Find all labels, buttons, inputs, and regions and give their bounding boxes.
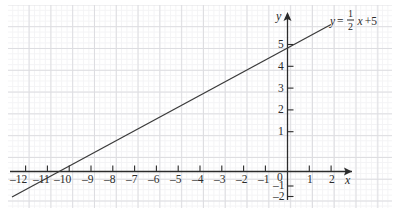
x-tick-label: –12 [10,174,27,186]
x-tick-label: –4 [192,174,204,186]
equation-fraction: 1 2 [347,9,354,32]
x-tick-label: 2 [329,174,335,186]
x-tick-label: –1 [258,174,270,186]
x-tick-label: –9 [82,174,94,186]
y-axis-ticks [288,45,294,197]
equation-variable: x [358,15,363,27]
x-tick-label: –3 [214,174,226,186]
x-tick-label: 1 [307,174,313,186]
x-tick-label: –5 [170,174,182,186]
x-tick-label: –6 [148,174,160,186]
equation-annotation: y = 1 2 x +5 [330,9,377,32]
graph-figure: –12 –11 –10 –9 –8 –7 –6 –5 –4 –3 –2 –1 1… [0,0,401,218]
y-tick-label: 3 [278,83,284,95]
y-tick-label: –2 [273,191,285,203]
x-axis-name-label: x [345,174,350,186]
equation-equals: = [337,15,344,27]
x-tick-label: –2 [236,174,248,186]
x-tick-label: –8 [104,174,116,186]
fraction-denominator: 2 [347,22,354,32]
y-tick-label: 5 [278,39,284,51]
x-tick-label: –10 [54,174,71,186]
x-tick-label: –11 [33,174,50,186]
equation-lhs: y [330,15,335,27]
equation-constant: +5 [365,15,377,27]
fraction-numerator: 1 [347,9,354,19]
x-tick-label: –7 [126,174,138,186]
y-axis-name-label: y [276,10,281,22]
y-tick-label: 1 [278,126,284,138]
y-tick-label: 4 [278,61,284,73]
x-axis-ticks [26,166,332,172]
y-tick-label: 2 [278,104,284,116]
